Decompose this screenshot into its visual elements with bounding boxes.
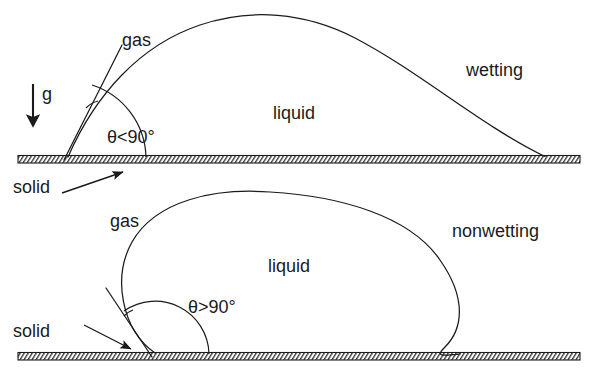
substrate-lower <box>18 353 580 361</box>
solid-pointer-lower <box>84 325 131 349</box>
label-contact-angle-upper: θ<90° <box>107 128 155 146</box>
label-solid-upper: solid <box>13 178 50 196</box>
label-solid-lower: solid <box>13 322 50 340</box>
label-liquid-upper: liquid <box>273 104 315 122</box>
label-nonwetting: nonwetting <box>452 222 539 240</box>
label-liquid-lower: liquid <box>268 257 310 275</box>
label-gas-lower: gas <box>110 212 139 230</box>
label-contact-angle-lower: θ>90° <box>188 298 236 316</box>
wetting-nonwetting-diagram: gas liquid wetting g solid θ<90° gas liq… <box>0 0 596 382</box>
label-wetting: wetting <box>466 61 523 79</box>
substrate-upper <box>18 156 580 164</box>
diagram-canvas <box>0 0 596 382</box>
label-gravity: g <box>42 85 52 103</box>
solid-pointer-upper <box>62 172 123 193</box>
label-gas-upper: gas <box>122 31 151 49</box>
tangent-line-nonwetting <box>106 288 152 357</box>
